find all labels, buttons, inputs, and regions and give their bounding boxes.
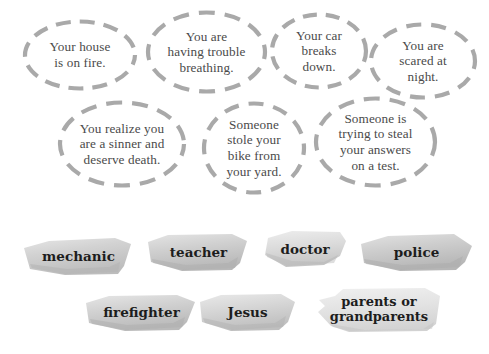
answer-strip-doctor[interactable]: doctor (262, 229, 348, 271)
answer-strip-police[interactable]: police (358, 232, 475, 274)
answer-label: Jesus (222, 305, 274, 320)
scenario-text: You realize you are a sinner and deserve… (76, 121, 169, 168)
answer-strip-teacher[interactable]: teacher (146, 232, 251, 274)
scenario-bubble-house-fire[interactable]: Your house is on fire. (22, 19, 138, 91)
answer-label: firefighter (97, 305, 186, 320)
scenario-text: You are scared at night. (395, 38, 450, 85)
scenario-text: You are having trouble breathing. (164, 29, 250, 76)
answer-label: mechanic (36, 249, 121, 264)
answer-label: parents or grandparents (324, 295, 434, 324)
scenario-bubble-sinner-death[interactable]: You realize you are a sinner and deserve… (57, 100, 187, 188)
answer-strip-mechanic[interactable]: mechanic (21, 236, 136, 278)
activity-worksheet: Your house is on fire. You are having tr… (0, 0, 489, 354)
answer-strip-grandparents[interactable]: parents or grandparents (315, 286, 443, 334)
answer-label: police (388, 245, 446, 260)
scenario-bubble-stolen-bike[interactable]: Someone stole your bike from your yard. (201, 101, 307, 195)
scenario-text: Someone is trying to steal your answers … (334, 111, 416, 173)
answer-label: doctor (274, 242, 335, 257)
scenario-bubble-scared-at-night[interactable]: You are scared at night. (368, 22, 478, 100)
scenario-bubble-car-breaks-down[interactable]: Your car breaks down. (269, 12, 369, 90)
answer-strip-jesus[interactable]: Jesus (197, 292, 298, 334)
answer-label: teacher (164, 245, 233, 260)
scenario-text: Someone stole your bike from your yard. (222, 117, 285, 179)
scenario-text: Your house is on fire. (46, 39, 115, 70)
scenario-bubble-cheating-on-test[interactable]: Someone is trying to steal your answers … (313, 96, 438, 188)
answer-strip-firefighter[interactable]: firefighter (83, 292, 200, 334)
scenario-text: Your car breaks down. (292, 28, 346, 75)
scenario-bubble-trouble-breathing[interactable]: You are having trouble breathing. (145, 10, 268, 94)
